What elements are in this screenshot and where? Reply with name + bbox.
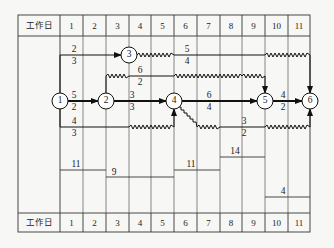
header-day-11: 11 bbox=[288, 22, 310, 31]
footer-day-3: 3 bbox=[106, 219, 129, 228]
activity-2-4-top: 3 bbox=[130, 91, 135, 101]
footer-day-6: 6 bbox=[174, 219, 197, 228]
table-grid bbox=[18, 15, 310, 232]
activity-1-4-bottom: 3 bbox=[72, 129, 77, 139]
footer-day-9: 9 bbox=[242, 219, 265, 228]
header-row-label: 工作日 bbox=[18, 21, 60, 30]
activity-2-4-bottom: 3 bbox=[130, 103, 135, 113]
footer-day-2: 2 bbox=[83, 219, 106, 228]
activity-2-5-top: 6 bbox=[138, 66, 143, 76]
header-day-10: 10 bbox=[265, 22, 288, 31]
node-2-label: 2 bbox=[104, 96, 109, 106]
header-day-3: 3 bbox=[106, 22, 129, 31]
activity-5-6-bottom: 2 bbox=[281, 103, 286, 113]
activity-3-6-bottom: 4 bbox=[185, 57, 190, 67]
time-scaled-network-diagram: 工作日 1 2 3 4 5 6 7 8 9 10 11 工作日 1 2 3 4 … bbox=[0, 0, 334, 248]
header-day-2: 2 bbox=[83, 22, 106, 31]
footer-day-5: 5 bbox=[151, 219, 174, 228]
header-day-8: 8 bbox=[220, 22, 242, 31]
activity-1-3-top: 2 bbox=[72, 45, 77, 55]
activity-3-6-top: 5 bbox=[185, 45, 190, 55]
activity-1-2-bottom: 2 bbox=[72, 103, 77, 113]
node-4-label: 4 bbox=[172, 96, 177, 106]
node-5-label: 5 bbox=[263, 96, 268, 106]
header-day-6: 6 bbox=[174, 22, 197, 31]
resource-histogram bbox=[60, 157, 310, 197]
header-day-4: 4 bbox=[129, 22, 151, 31]
footer-day-11: 11 bbox=[288, 219, 310, 228]
header-day-9: 9 bbox=[242, 22, 265, 31]
footer-day-1: 1 bbox=[60, 219, 83, 228]
activity-1-4-top: 4 bbox=[72, 117, 77, 127]
footer-day-10: 10 bbox=[265, 219, 288, 228]
activity-4-6-bottom: 2 bbox=[242, 129, 247, 139]
activity-1-2-top: 5 bbox=[72, 91, 77, 101]
histogram-label-days-1-2: 11 bbox=[71, 160, 80, 170]
footer-day-8: 8 bbox=[220, 219, 242, 228]
header-day-5: 5 bbox=[151, 22, 174, 31]
activity-4-6-top: 3 bbox=[242, 117, 247, 127]
activity-2-5-bottom: 2 bbox=[138, 78, 143, 88]
node-1-label: 1 bbox=[58, 96, 63, 106]
activity-4-5-top: 6 bbox=[207, 91, 212, 101]
footer-row-label: 工作日 bbox=[18, 218, 60, 227]
node-3-label: 3 bbox=[127, 50, 132, 60]
header-day-1: 1 bbox=[60, 22, 83, 31]
histogram-label-days-10-11: 4 bbox=[281, 187, 286, 197]
activity-5-6-top: 4 bbox=[281, 91, 286, 101]
activity-1-3-bottom: 3 bbox=[72, 57, 77, 67]
footer-day-7: 7 bbox=[197, 219, 220, 228]
histogram-label-days-3-5: 9 bbox=[112, 168, 117, 178]
histogram-label-days-6-7: 11 bbox=[186, 160, 195, 170]
activity-4-5-bottom: 4 bbox=[207, 103, 212, 113]
header-day-7: 7 bbox=[197, 22, 220, 31]
node-6-label: 6 bbox=[308, 96, 313, 106]
histogram-label-days-8-9: 14 bbox=[230, 147, 240, 157]
footer-day-4: 4 bbox=[129, 219, 151, 228]
